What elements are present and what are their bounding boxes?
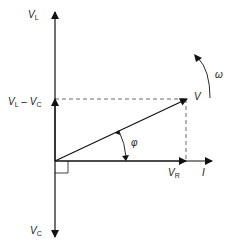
phasor-diagram-graphic	[0, 0, 229, 245]
label-v: V	[194, 92, 201, 102]
v-phasor	[55, 99, 187, 161]
label-phi: φ	[131, 138, 138, 148]
label-vr: VR	[168, 168, 180, 179]
label-omega: ω	[215, 70, 223, 80]
label-vl: VL	[28, 10, 39, 21]
phasor-diagram: VL VL – VC VC V VR I φ ω	[0, 0, 229, 245]
label-i: I	[202, 168, 205, 178]
phi-arc	[119, 131, 126, 157]
right-angle-marker	[55, 161, 68, 173]
label-vl-minus-vc: VL – VC	[8, 97, 41, 108]
label-vc: VC	[30, 226, 42, 237]
